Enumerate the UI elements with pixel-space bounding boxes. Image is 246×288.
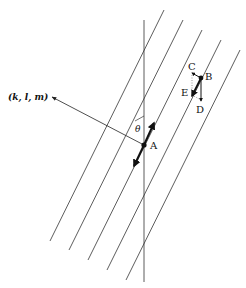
- lattice-diagram: (k, l, m) θ A B C D E: [0, 0, 246, 288]
- normal-vector-arrow: [52, 97, 144, 145]
- theta-label: θ: [135, 124, 141, 134]
- theta-angle-arc: [135, 116, 144, 121]
- lattice-plane-4: [107, 40, 221, 270]
- displacement-arrow-down-a: [134, 145, 144, 166]
- lattice-plane-5: [126, 50, 240, 280]
- normal-vector-label: (k, l, m): [8, 92, 48, 103]
- point-b-dot: [199, 76, 204, 81]
- lattice-plane-2: [69, 20, 183, 250]
- point-d-label: D: [196, 104, 204, 115]
- point-e-label: E: [181, 87, 188, 98]
- point-a-dot: [141, 142, 146, 147]
- point-c-label: C: [188, 61, 196, 72]
- vector-b-to-e: [192, 78, 201, 96]
- point-b-label: B: [205, 71, 212, 82]
- point-a-label: A: [149, 140, 158, 151]
